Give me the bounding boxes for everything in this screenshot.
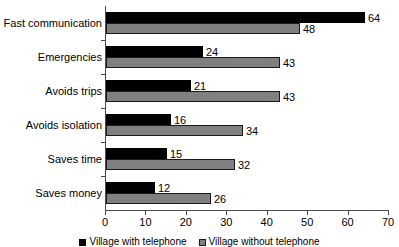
bar-value-label: 43 — [283, 58, 295, 69]
legend-label: Village without telephone — [209, 236, 320, 247]
category-label: Avoids isolation — [26, 119, 102, 131]
x-tick-label-30: 30 — [206, 216, 246, 228]
category-label: Avoids trips — [45, 85, 102, 97]
x-tick-label-20: 20 — [166, 216, 206, 228]
bar — [106, 182, 155, 193]
legend-item[interactable]: Village without telephone — [199, 236, 320, 247]
bar — [106, 193, 211, 204]
bar-value-label: 64 — [368, 13, 380, 24]
bar — [106, 57, 280, 68]
y-axis-line — [105, 6, 106, 210]
plot-area: 010203040506070 644824432143163415321226 — [105, 6, 388, 210]
bar-value-label: 32 — [238, 160, 250, 171]
x-tick-label-50: 50 — [287, 216, 327, 228]
bar — [106, 80, 191, 91]
legend-item[interactable]: Village with telephone — [79, 236, 186, 247]
category-label: Saves time — [48, 153, 102, 165]
x-tick-30 — [226, 211, 227, 215]
x-tick-10 — [145, 211, 146, 215]
y-tick-5 — [101, 176, 105, 177]
chart-legend: Village with telephoneVillage without te… — [0, 236, 399, 247]
bar — [106, 46, 203, 57]
x-tick-70 — [388, 211, 389, 215]
bar-value-label: 43 — [283, 92, 295, 103]
bar — [106, 23, 300, 34]
bar — [106, 91, 280, 102]
x-tick-60 — [348, 211, 349, 215]
y-tick-2 — [101, 74, 105, 75]
bar — [106, 12, 365, 23]
x-tick-label-40: 40 — [247, 216, 287, 228]
bar — [106, 114, 171, 125]
x-axis-line — [105, 210, 389, 211]
x-tick-40 — [267, 211, 268, 215]
y-tick-4 — [101, 142, 105, 143]
legend-label: Village with telephone — [89, 236, 186, 247]
y-tick-3 — [101, 108, 105, 109]
x-tick-0 — [105, 211, 106, 215]
black-square-marker-icon — [79, 239, 86, 246]
y-tick-1 — [101, 40, 105, 41]
bar — [106, 159, 235, 170]
bar-value-label: 34 — [246, 126, 258, 137]
x-tick-20 — [186, 211, 187, 215]
bar — [106, 125, 243, 136]
gray-square-marker-icon — [199, 239, 206, 246]
x-tick-label-10: 10 — [125, 216, 165, 228]
category-label: Fast communication — [4, 17, 102, 29]
x-tick-label-0: 0 — [85, 216, 125, 228]
category-label: Saves money — [35, 187, 102, 199]
x-tick-label-60: 60 — [328, 216, 368, 228]
bar — [106, 148, 167, 159]
x-tick-50 — [307, 211, 308, 215]
x-tick-label-70: 70 — [368, 216, 399, 228]
bar-value-label: 48 — [303, 24, 315, 35]
bar-value-label: 26 — [214, 194, 226, 205]
category-label: Emergencies — [38, 51, 102, 63]
